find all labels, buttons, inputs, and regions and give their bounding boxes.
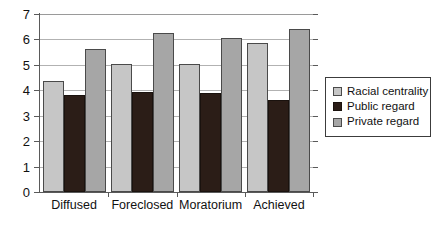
chart-legend: Racial centrality Public regard Private …: [325, 77, 431, 137]
y-tick-mark: [34, 192, 39, 193]
gridline: [40, 90, 313, 91]
y-tick-label: 2: [0, 135, 30, 148]
gridline: [40, 39, 313, 40]
x-axis-category-label: Foreclosed: [108, 199, 176, 213]
category-separator-tick: [108, 192, 109, 197]
y-tick-mark: [34, 65, 39, 66]
y-tick-mark-right: [313, 167, 318, 168]
legend-item: Racial centrality: [333, 85, 424, 98]
bar: [268, 100, 289, 192]
bar: [132, 92, 153, 192]
y-tick-mark-right: [313, 116, 318, 117]
y-tick-mark: [34, 14, 39, 15]
y-tick-mark-right: [313, 39, 318, 40]
plot-area: [40, 14, 313, 192]
legend-label: Racial centrality: [347, 85, 428, 98]
legend-swatch-icon: [333, 102, 342, 111]
y-tick-label: 1: [0, 160, 30, 173]
bar: [179, 64, 200, 192]
y-tick-mark-right: [313, 90, 318, 91]
legend-item: Public regard: [333, 100, 424, 113]
y-tick-label: 6: [0, 33, 30, 46]
y-tick-mark-right: [313, 65, 318, 66]
bar: [289, 29, 310, 192]
bar: [111, 64, 132, 192]
category-separator-tick: [177, 192, 178, 197]
legend-label: Private regard: [347, 115, 419, 128]
legend-item: Private regard: [333, 115, 424, 128]
y-tick-label: 7: [0, 8, 30, 21]
x-axis-category-label: Achieved: [245, 199, 313, 213]
category-separator-tick: [313, 192, 314, 197]
y-tick-mark-right: [313, 14, 318, 15]
y-tick-mark: [34, 116, 39, 117]
bar: [43, 81, 64, 192]
bar: [153, 33, 174, 192]
legend-swatch-icon: [333, 118, 342, 127]
legend-swatch-icon: [333, 87, 342, 96]
x-axis-category-label: Diffused: [40, 199, 108, 213]
bar: [200, 93, 221, 192]
y-tick-mark-right: [313, 141, 318, 142]
legend-label: Public regard: [347, 100, 415, 113]
bar: [64, 95, 85, 192]
gridline: [40, 14, 313, 15]
gridline: [40, 65, 313, 66]
category-separator-tick: [245, 192, 246, 197]
y-tick-label: 4: [0, 84, 30, 97]
x-axis-category-label: Moratorium: [177, 199, 245, 213]
bar: [85, 49, 106, 192]
y-tick-label: 0: [0, 186, 30, 199]
y-tick-mark: [34, 90, 39, 91]
y-tick-label: 5: [0, 58, 30, 71]
bar: [221, 38, 242, 192]
y-tick-mark: [34, 167, 39, 168]
y-tick-mark: [34, 39, 39, 40]
y-tick-label: 3: [0, 109, 30, 122]
y-tick-mark: [34, 141, 39, 142]
bar-chart: 01234567 DiffusedForeclosedMoratoriumAch…: [0, 0, 439, 228]
bar: [247, 43, 268, 192]
